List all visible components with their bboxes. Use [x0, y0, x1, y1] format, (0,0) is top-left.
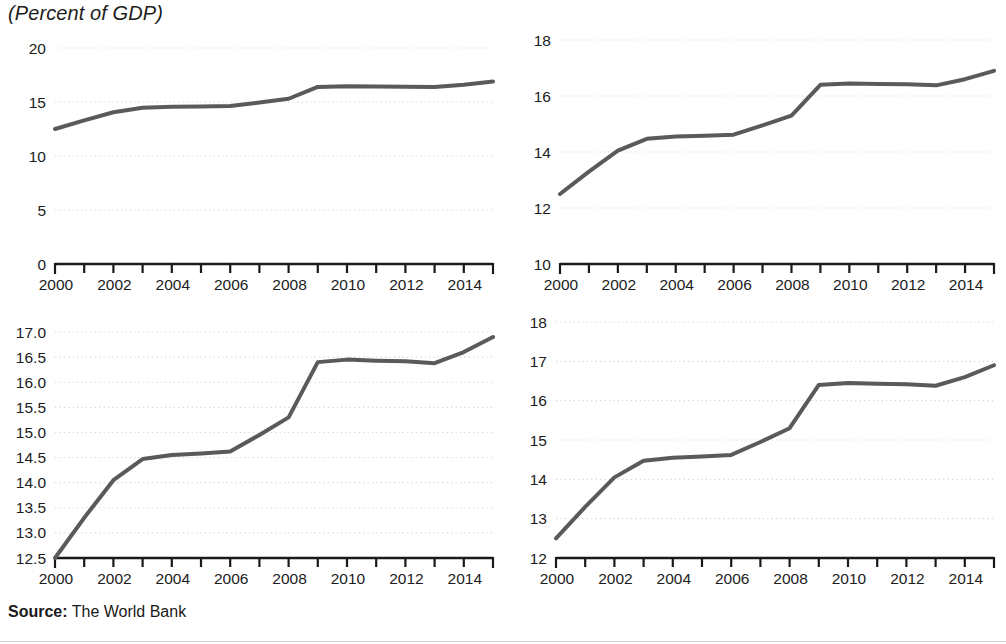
chart-svg-top-left: 0510152020002002200420062008201020122014	[0, 36, 503, 306]
x-tick-label: 2012	[890, 570, 924, 587]
x-tick-label: 2006	[717, 276, 751, 293]
chart-panel-bottom-left: 12.513.013.514.014.515.015.516.016.517.0…	[0, 318, 503, 608]
y-tick-label: 17.0	[16, 324, 47, 341]
x-tick-label: 2002	[97, 276, 131, 293]
x-tick-label: 2012	[389, 570, 423, 587]
gridlines	[560, 40, 994, 208]
y-axis-tick-labels: 05101520	[29, 40, 47, 273]
x-tick-label: 2000	[544, 276, 579, 293]
y-tick-label: 17	[530, 353, 547, 370]
chart-panel-bottom-right: 1213141516171820002002200420062008201020…	[503, 308, 1006, 608]
x-tick-label: 2006	[214, 570, 248, 587]
x-tick-label: 2008	[272, 276, 306, 293]
x-tick-label: 2014	[949, 570, 984, 587]
y-tick-label: 15.5	[16, 399, 46, 416]
x-tick-label: 2002	[97, 570, 131, 587]
gridlines	[55, 48, 493, 210]
page-title: (Percent of GDP)	[8, 2, 163, 25]
source-note: Source: The World Bank	[8, 603, 186, 621]
y-tick-label: 20	[29, 40, 47, 57]
y-tick-label: 12	[534, 200, 551, 217]
y-tick-label: 12.5	[16, 550, 46, 567]
x-axis-tick-labels: 20002002200420062008201020122014	[544, 276, 984, 293]
y-tick-label: 15	[530, 432, 547, 449]
y-axis-tick-labels: 12.513.013.514.014.515.015.516.016.517.0	[16, 324, 47, 567]
x-tick-label: 2010	[331, 570, 366, 587]
y-tick-label: 16.0	[16, 374, 47, 391]
x-tick-label: 2006	[715, 570, 749, 587]
source-value: The World Bank	[68, 603, 187, 620]
x-tick-label: 2010	[331, 276, 366, 293]
y-tick-label: 14	[530, 471, 548, 488]
x-axis	[55, 263, 493, 274]
data-series-line	[556, 365, 994, 538]
y-tick-label: 15	[29, 94, 46, 111]
source-label: Source:	[8, 603, 68, 620]
x-tick-label: 2014	[949, 276, 984, 293]
y-tick-label: 10	[534, 256, 552, 273]
x-tick-label: 2008	[775, 276, 809, 293]
y-tick-label: 5	[37, 202, 46, 219]
y-tick-label: 16	[534, 88, 551, 105]
x-tick-label: 2012	[389, 276, 423, 293]
x-tick-label: 2002	[598, 570, 632, 587]
x-tick-label: 2006	[214, 276, 248, 293]
x-axis-tick-labels: 20002002200420062008201020122014	[540, 570, 984, 587]
x-tick-label: 2004	[657, 570, 692, 587]
x-axis	[560, 263, 994, 274]
y-tick-label: 0	[37, 256, 46, 273]
y-tick-label: 16	[530, 392, 547, 409]
chart-panel-top-left: 0510152020002002200420062008201020122014	[0, 36, 503, 306]
y-tick-label: 18	[534, 32, 551, 49]
x-tick-label: 2012	[891, 276, 925, 293]
x-axis	[55, 557, 493, 568]
y-tick-label: 16.5	[16, 349, 46, 366]
x-tick-label: 2004	[156, 276, 191, 293]
chart-svg-bottom-left: 12.513.013.514.014.515.015.516.016.517.0…	[0, 318, 503, 608]
x-tick-label: 2002	[602, 276, 636, 293]
y-tick-label: 15.0	[16, 424, 47, 441]
x-tick-label: 2008	[773, 570, 807, 587]
data-series-line	[560, 71, 994, 194]
chart-svg-bottom-right: 1213141516171820002002200420062008201020…	[503, 308, 1006, 608]
y-tick-label: 12	[530, 550, 547, 567]
x-axis-tick-labels: 20002002200420062008201020122014	[39, 276, 483, 293]
y-axis-tick-labels: 1012141618	[534, 32, 552, 273]
x-tick-label: 2000	[540, 570, 575, 587]
y-tick-label: 13	[530, 510, 547, 527]
y-tick-label: 13.5	[16, 499, 46, 516]
x-tick-label: 2008	[272, 570, 306, 587]
y-tick-label: 14.5	[16, 449, 46, 466]
x-tick-label: 2014	[448, 276, 483, 293]
y-tick-label: 13.0	[16, 524, 47, 541]
chart-panel-top-right: 1012141618200020022004200620082010201220…	[503, 26, 1006, 306]
x-tick-label: 2000	[39, 276, 74, 293]
x-tick-label: 2014	[448, 570, 483, 587]
chart-svg-top-right: 1012141618200020022004200620082010201220…	[503, 26, 1006, 306]
y-axis-tick-labels: 12131415161718	[530, 314, 548, 567]
x-axis-tick-labels: 20002002200420062008201020122014	[39, 570, 483, 587]
bottom-divider	[0, 641, 1006, 642]
y-tick-label: 18	[530, 314, 547, 331]
y-tick-label: 14.0	[16, 474, 47, 491]
x-tick-label: 2004	[156, 570, 191, 587]
gridlines	[556, 322, 994, 519]
y-tick-label: 14	[534, 144, 552, 161]
data-series-line	[55, 337, 493, 558]
x-tick-label: 2010	[832, 570, 867, 587]
x-tick-label: 2004	[659, 276, 694, 293]
y-tick-label: 10	[29, 148, 47, 165]
x-axis	[556, 557, 994, 568]
x-tick-label: 2010	[833, 276, 868, 293]
x-tick-label: 2000	[39, 570, 74, 587]
data-series-line	[55, 81, 493, 129]
